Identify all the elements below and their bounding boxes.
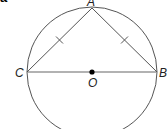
- label-a: A: [86, 0, 95, 9]
- circumscribed-circle: [27, 7, 157, 129]
- center-point-o: [89, 69, 94, 74]
- label-o: O: [88, 76, 97, 90]
- geometry-figure: a A C B O: [0, 0, 168, 129]
- label-c: C: [15, 66, 24, 80]
- circle-triangle-diagram: A C B O: [0, 0, 168, 129]
- part-label: a: [0, 0, 7, 4]
- label-b: B: [159, 66, 167, 80]
